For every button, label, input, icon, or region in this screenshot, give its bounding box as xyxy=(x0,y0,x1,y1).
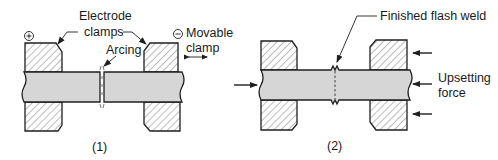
left-electrode-clamp-bottom xyxy=(25,102,62,131)
electrode-label-line2: clamps xyxy=(84,25,124,39)
workpiece-left xyxy=(22,72,100,102)
workpiece-right xyxy=(104,72,184,102)
right-clamp-top-2 xyxy=(370,40,407,70)
electrode-leader-left xyxy=(58,32,78,44)
electrode-label-line1: Electrode xyxy=(79,9,132,23)
left-clamp-bottom-2 xyxy=(261,100,297,130)
right-movable-clamp-top xyxy=(144,43,178,72)
movable-label-line2: clamp xyxy=(186,41,219,55)
arcing-leader xyxy=(104,56,116,66)
upsetting-label-line1: Upsetting xyxy=(438,71,491,85)
right-clamp-bottom-2 xyxy=(370,100,407,130)
arcing-label: Arcing xyxy=(106,43,141,57)
right-movable-clamp-bottom xyxy=(144,102,180,131)
flash-welding-diagram: Electrode clamps Arcing Movable clamp (1… xyxy=(0,0,498,160)
left-clamp-top-2 xyxy=(261,41,297,70)
left-electrode-clamp-top xyxy=(25,43,62,72)
upsetting-label-line2: force xyxy=(438,86,466,100)
finished-weld-label: Finished flash weld xyxy=(380,9,486,23)
welded-workpiece xyxy=(259,66,412,104)
diagram-graphics xyxy=(0,0,498,160)
panel-1-caption: (1) xyxy=(92,140,107,154)
panel-2 xyxy=(234,16,432,130)
panel-2-caption: (2) xyxy=(327,139,342,153)
movable-label-line1: Movable xyxy=(186,26,233,40)
